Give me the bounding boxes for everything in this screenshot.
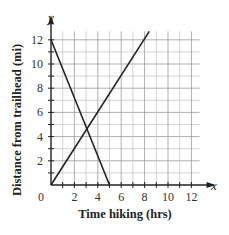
y-tick-label: 4 (37, 130, 43, 144)
y-tick-label: 12 (31, 33, 43, 47)
grid (51, 31, 200, 185)
y-tick-label: 8 (37, 81, 43, 95)
y-tick-label: 6 (37, 105, 43, 119)
x-tick-label: 6 (118, 190, 124, 204)
y-axis-label: Distance from trailhead (mi) (10, 44, 24, 196)
y-axis-letter: y (46, 10, 54, 25)
y-tick-label: 2 (37, 154, 43, 168)
x-tick-label: 8 (142, 190, 148, 204)
x-tick-label: 4 (95, 190, 101, 204)
series-lines (51, 31, 149, 185)
x-tick-label: 2 (71, 190, 77, 204)
x-axis-label: Time hiking (hrs) (78, 207, 172, 221)
origin-label: 0 (38, 190, 44, 204)
axes (48, 15, 216, 188)
y-tick-label: 10 (31, 57, 43, 71)
x-tick-label: 12 (185, 190, 197, 204)
chart: 2468101224681012 Time hiking (hrs) Dista… (0, 0, 229, 235)
x-tick-label: 10 (162, 190, 174, 204)
x-axis-letter: x (210, 178, 217, 193)
